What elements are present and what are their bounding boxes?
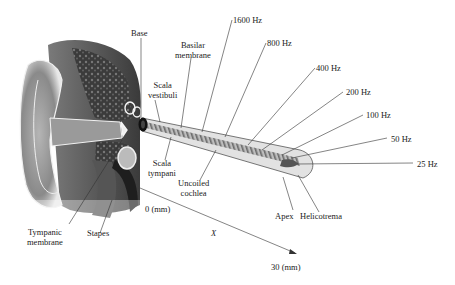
label-base: Base xyxy=(131,28,148,38)
label-tympanic-membrane: Tympanic membrane xyxy=(27,227,63,247)
ear-illustration xyxy=(0,40,150,220)
label-freq-200hz: 200 Hz xyxy=(346,87,371,97)
cochlea-diagram: Base Basilar membrane Scala vestibuli Sc… xyxy=(0,0,455,285)
label-freq-1600hz: 1600 Hz xyxy=(233,15,262,25)
label-origin-0mm: 0 (mm) xyxy=(145,204,170,214)
diagram-graphic xyxy=(0,0,455,285)
label-scala-tympani: Scala tympani xyxy=(148,158,176,178)
label-apex: Apex xyxy=(275,211,293,221)
label-freq-100hz: 100 Hz xyxy=(366,110,391,120)
label-uncoiled-cochlea: Uncoiled cochlea xyxy=(178,178,209,198)
label-scala-vestibuli: Scala vestibuli xyxy=(148,80,177,100)
label-basilar-membrane: Basilar membrane xyxy=(175,40,211,60)
label-helicotrema: Helicotrema xyxy=(300,211,342,221)
label-axis-x: X xyxy=(211,228,216,238)
label-axis-30mm: 30 (mm) xyxy=(271,262,301,272)
label-freq-50hz: 50 Hz xyxy=(391,134,412,144)
label-freq-800hz: 800 Hz xyxy=(267,38,292,48)
label-freq-25hz: 25 Hz xyxy=(417,159,438,169)
label-stapes: Stapes xyxy=(87,228,109,238)
label-freq-400hz: 400 Hz xyxy=(316,63,341,73)
